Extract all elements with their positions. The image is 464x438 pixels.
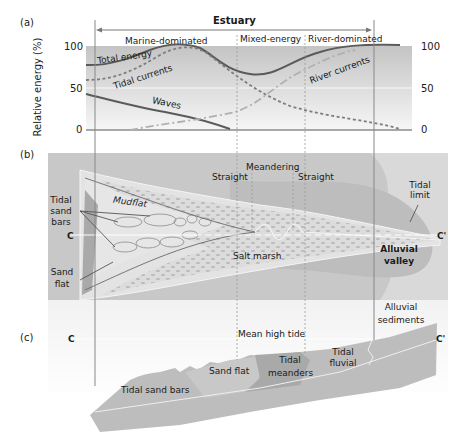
straight-left-label: Straight [212, 172, 248, 182]
tidal-sand-bars-label: Tidal sand bars [46, 195, 76, 228]
panel-a-label: (a) [20, 18, 34, 28]
y-axis-label: Relative energy (%) [33, 38, 43, 137]
section-c-label-b: C [67, 231, 74, 241]
tidal-fluvial-label: Tidal fluvial [328, 347, 358, 369]
mean-high-tide-label: Mean high tide [238, 329, 305, 339]
plan-view [48, 153, 448, 300]
salt-marsh-label: Salt marsh [233, 251, 282, 261]
alluvial-sediments-label: Alluvial sediments [376, 301, 426, 327]
sand-flat-label-c: Sand flat [209, 366, 249, 376]
alluvial-valley-label: Alluvial valley [376, 243, 422, 267]
panel-b-label: (b) [20, 150, 34, 160]
sand-flat-label-b: Sand flat [48, 266, 76, 290]
section-c-label-c: C [68, 334, 75, 344]
y-tick-0-left: 0 [76, 125, 82, 135]
straight-right-label: Straight [298, 172, 334, 182]
tidal-sand-bars-label-c: Tidal sand bars [121, 385, 189, 395]
section-c-prime-label-b: C' [437, 231, 446, 241]
zone-river: River-dominated [308, 34, 382, 44]
tidal-limit-label: Tidal limit [400, 180, 440, 200]
zone-marine: Marine-dominated [125, 36, 207, 46]
section-c-prime-label-c: C' [436, 334, 445, 344]
zone-mixed: Mixed-energy [240, 34, 301, 44]
tidal-meanders-label: Tidal meanders [268, 354, 312, 380]
y-tick-100-right: 100 [421, 42, 440, 52]
meandering-label: Meandering [246, 162, 299, 172]
y-tick-50-right: 50 [421, 84, 434, 94]
estuary-title: Estuary [213, 16, 256, 26]
y-tick-100-left: 100 [64, 42, 83, 52]
panel-c-label: (c) [20, 333, 33, 343]
y-tick-0-right: 0 [421, 125, 427, 135]
y-tick-50-left: 50 [70, 84, 83, 94]
